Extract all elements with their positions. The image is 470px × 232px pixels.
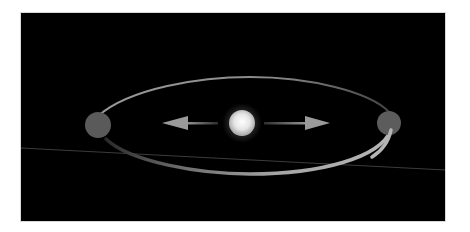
star-icon (229, 110, 255, 136)
arrow-right-icon (264, 116, 330, 130)
orbit-diagram (0, 0, 470, 232)
planet-left-icon (85, 112, 111, 138)
arrow-left-icon (162, 116, 218, 130)
